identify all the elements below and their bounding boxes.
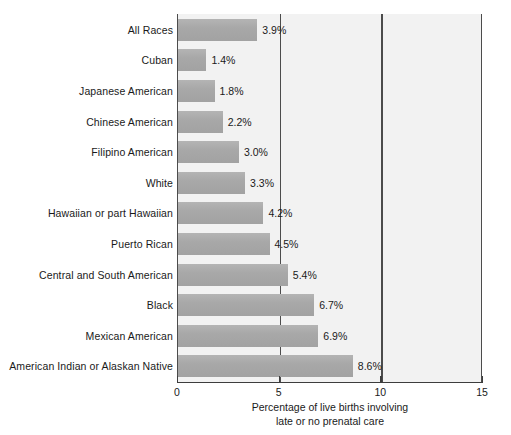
bar-value-label: 2.2% <box>228 116 252 128</box>
bar-row: Black6.7% <box>0 290 511 321</box>
category-label: Black <box>147 299 173 311</box>
bar-value-label: 1.8% <box>220 85 244 97</box>
bar-row: Cuban1.4% <box>0 45 511 76</box>
bar <box>178 294 314 316</box>
bar-value-label: 1.4% <box>211 54 235 66</box>
bar-chart: All Races3.9%Cuban1.4%Japanese American1… <box>0 0 511 435</box>
bar-row: Puerto Rican4.5% <box>0 229 511 260</box>
bar-row: White3.3% <box>0 168 511 199</box>
bar-rows: All Races3.9%Cuban1.4%Japanese American1… <box>0 0 511 382</box>
x-axis-caption-line2: late or no prenatal care <box>177 415 483 429</box>
category-label: Central and South American <box>39 269 173 281</box>
bar-value-label: 3.3% <box>250 177 274 189</box>
bar-value-label: 5.4% <box>293 269 317 281</box>
x-axis-caption: Percentage of live births involving late… <box>177 401 483 428</box>
bar-value-label: 3.0% <box>244 146 268 158</box>
bar-value-label: 8.6% <box>358 360 382 372</box>
x-tick <box>279 376 280 383</box>
category-label: Puerto Rican <box>111 238 173 250</box>
bar <box>178 172 245 194</box>
bar-row: Japanese American1.8% <box>0 76 511 107</box>
bar <box>178 325 318 347</box>
bar <box>178 355 353 377</box>
x-tick <box>177 376 178 383</box>
category-label: American Indian or Alaskan Native <box>9 360 173 372</box>
x-tick-label: 5 <box>276 386 282 398</box>
category-label: Chinese American <box>86 116 173 128</box>
x-tick-label: 15 <box>476 386 488 398</box>
x-axis-caption-line1: Percentage of live births involving <box>177 401 483 415</box>
x-tick <box>380 376 381 383</box>
bar-row: Hawaiian or part Hawaiian4.2% <box>0 198 511 229</box>
x-tick-label: 10 <box>374 386 386 398</box>
category-label: Filipino American <box>91 146 173 158</box>
bar-value-label: 3.9% <box>262 24 286 36</box>
category-label: Mexican American <box>86 330 173 342</box>
category-label: Japanese American <box>79 85 173 97</box>
bar-value-label: 6.7% <box>319 299 343 311</box>
x-axis-line <box>177 382 483 383</box>
bar-row: Central and South American5.4% <box>0 259 511 290</box>
bar <box>178 233 270 255</box>
bar <box>178 49 206 71</box>
x-tick-label: 0 <box>174 386 180 398</box>
bar <box>178 111 223 133</box>
bar-row: All Races3.9% <box>0 15 511 46</box>
bar-row: Filipino American3.0% <box>0 137 511 168</box>
bar <box>178 202 263 224</box>
bar-row: Chinese American2.2% <box>0 106 511 137</box>
category-label: Cuban <box>142 54 173 66</box>
x-tick <box>482 376 483 383</box>
bar-value-label: 6.9% <box>323 330 347 342</box>
category-label: All Races <box>128 24 173 36</box>
bar <box>178 264 288 286</box>
bar-row: American Indian or Alaskan Native8.6% <box>0 351 511 382</box>
bar <box>178 19 257 41</box>
category-label: White <box>146 177 173 189</box>
bar <box>178 80 215 102</box>
bar <box>178 141 239 163</box>
category-label: Hawaiian or part Hawaiian <box>48 207 173 219</box>
bar-value-label: 4.2% <box>268 207 292 219</box>
bar-value-label: 4.5% <box>275 238 299 250</box>
bar-row: Mexican American6.9% <box>0 321 511 352</box>
